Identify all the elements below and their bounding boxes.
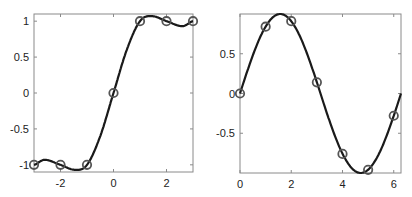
- x-tick-label: 6: [391, 178, 397, 190]
- y-tick-label: 1: [23, 15, 29, 27]
- x-tick-label: 0: [110, 177, 116, 189]
- y-tick-label: -0.5: [10, 123, 29, 135]
- y-tick-label: -0.5: [216, 127, 235, 139]
- y-tick-label: 0.5: [14, 51, 29, 63]
- figure: -202-1-0.500.51 0246-0.500.5: [0, 0, 412, 197]
- right-plot: 0246-0.500.5: [216, 14, 401, 190]
- x-tick-label: 2: [288, 178, 294, 190]
- x-tick-label: 4: [339, 178, 345, 190]
- y-tick-label: 0: [229, 88, 235, 100]
- x-tick-label: 2: [163, 177, 169, 189]
- x-tick-label: -2: [56, 177, 66, 189]
- x-tick-label: 0: [237, 178, 243, 190]
- y-tick-label: 0.5: [220, 48, 235, 60]
- y-tick-label: -1: [19, 159, 29, 171]
- y-tick-label: 0: [23, 87, 29, 99]
- left-plot: -202-1-0.500.51: [10, 14, 197, 189]
